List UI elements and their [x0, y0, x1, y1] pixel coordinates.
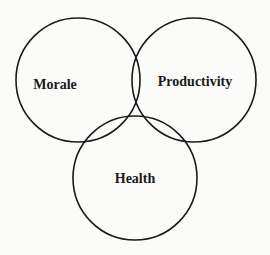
morale-label: Morale	[33, 77, 77, 92]
productivity-label: Productivity	[158, 74, 232, 89]
venn-diagram: Morale Productivity Health	[0, 0, 270, 255]
venn-diagram-canvas: Morale Productivity Health	[0, 0, 270, 255]
health-label: Health	[115, 171, 156, 186]
